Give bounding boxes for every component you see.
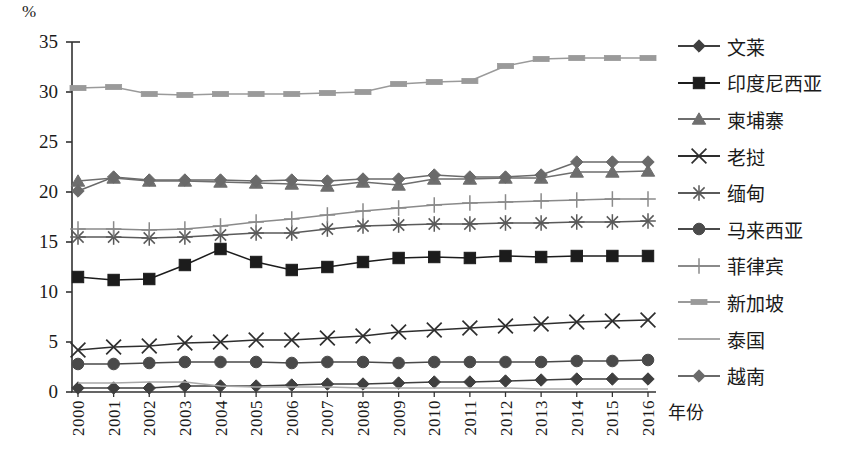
chart-legend: 文莱印度尼西亚柬埔寨老挝缅甸马来西亚菲律宾新加坡泰国越南 <box>676 28 842 394</box>
series-7 <box>70 55 656 97</box>
legend-item-4[interactable]: 缅甸 <box>676 174 842 211</box>
legend-item-2[interactable]: 柬埔寨 <box>676 101 842 138</box>
legend-label: 越南 <box>727 362 765 389</box>
legend-label: 新加坡 <box>727 289 784 316</box>
legend-label: 马来西亚 <box>727 216 803 243</box>
legend-marker-triangle-icon <box>676 109 722 129</box>
series-0 <box>72 373 654 394</box>
legend-label: 泰国 <box>727 326 765 353</box>
legend-item-7[interactable]: 新加坡 <box>676 284 842 321</box>
legend-item-1[interactable]: 印度尼西亚 <box>676 65 842 102</box>
x-axis-title: 年份 <box>668 398 704 424</box>
series-1 <box>72 243 653 285</box>
legend-item-9[interactable]: 越南 <box>676 357 842 394</box>
legend-marker-rect-icon <box>676 292 722 312</box>
series-9 <box>72 156 654 197</box>
legend-marker-diamond-icon <box>676 366 722 386</box>
legend-marker-asterisk-icon <box>676 183 722 203</box>
line-chart: % 05101520253035 20002001200220032004200… <box>0 0 842 455</box>
legend-marker-circle-icon <box>676 219 722 239</box>
legend-label: 缅甸 <box>727 179 765 206</box>
legend-label: 菲律宾 <box>727 252 784 279</box>
legend-item-5[interactable]: 马来西亚 <box>676 211 842 248</box>
legend-label: 文莱 <box>727 33 765 60</box>
legend-item-6[interactable]: 菲律宾 <box>676 248 842 285</box>
legend-label: 老挝 <box>727 143 765 170</box>
series-3 <box>71 313 656 358</box>
legend-label: 柬埔寨 <box>727 106 784 133</box>
series-5 <box>72 354 654 370</box>
legend-item-0[interactable]: 文莱 <box>676 28 842 65</box>
legend-marker-none-icon <box>676 329 722 349</box>
legend-marker-diamond-icon <box>676 36 722 56</box>
legend-marker-x-icon <box>676 146 722 166</box>
legend-marker-square-icon <box>676 73 722 93</box>
legend-item-8[interactable]: 泰国 <box>676 321 842 358</box>
legend-marker-plus-icon <box>676 256 722 276</box>
legend-label: 印度尼西亚 <box>727 69 822 96</box>
legend-item-3[interactable]: 老挝 <box>676 138 842 175</box>
